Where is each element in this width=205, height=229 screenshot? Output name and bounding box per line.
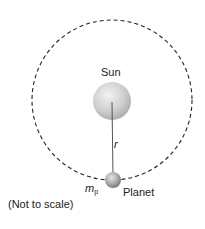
- mass-symbol: m: [85, 182, 94, 194]
- planet-label: Planet: [123, 187, 154, 198]
- radius-label: r: [114, 139, 118, 150]
- planet-mass-label: mp: [85, 183, 98, 195]
- scale-note: (Not to scale): [8, 199, 73, 210]
- planet: [105, 172, 121, 188]
- orbit-diagram: [0, 0, 205, 229]
- mass-subscript: p: [94, 188, 98, 195]
- sun-label: Sun: [101, 67, 121, 78]
